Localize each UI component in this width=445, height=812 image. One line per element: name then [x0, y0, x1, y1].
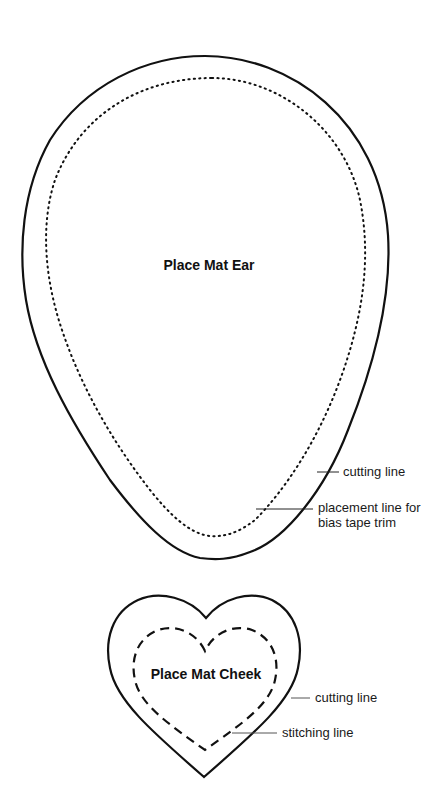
pattern-drawing [0, 0, 445, 812]
ear-placement-line [46, 78, 365, 536]
ear-title: Place Mat Ear [163, 257, 254, 273]
cheek-cutting-label: cutting line [315, 690, 377, 705]
cheek-stitching-label: stitching line [282, 725, 354, 740]
cheek-title: Place Mat Cheek [151, 666, 262, 682]
ear-cutting-line [22, 56, 388, 559]
ear-cutting-label: cutting line [343, 464, 405, 479]
ear-placement-label-line1: placement line for [318, 500, 421, 515]
ear-placement-label-line2: bias tape trim [318, 515, 396, 530]
